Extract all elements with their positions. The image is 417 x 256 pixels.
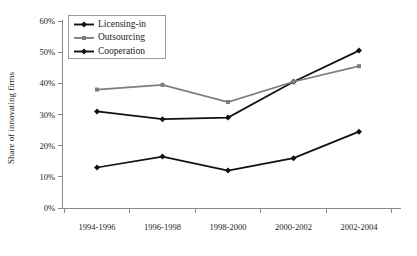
x-tick-label: 1994-1996 [79,222,116,232]
data-point-marker [292,80,296,84]
y-tick-label: 0% [44,203,55,213]
y-tick-label: 20% [39,141,55,151]
x-tick-label: 1996-1998 [144,222,181,232]
y-tick-label: 60% [39,16,55,26]
data-point-marker [291,155,297,161]
series-line [97,66,359,102]
data-point-marker [226,100,230,104]
x-tick-label: 1998-2000 [210,222,247,232]
data-point-marker [94,108,100,114]
data-point-marker [160,116,166,122]
data-point-marker [161,83,165,87]
data-point-marker [160,154,166,160]
data-point-marker [225,168,231,174]
legend-label[interactable]: Outsourcing [98,32,145,42]
y-axis-title: Share of innovating firms [6,71,16,164]
chart-container: Share of innovating firms 0%10%20%30%40%… [0,0,417,256]
series-line [97,51,359,120]
data-point-marker [356,129,362,135]
data-point-marker [357,64,361,68]
y-tick-label: 50% [39,47,55,57]
legend-label[interactable]: Licensing-in [98,19,146,29]
x-tick-label: 2002-2004 [341,222,379,232]
x-tick-label: 2000-2002 [275,222,312,232]
data-point-marker [94,164,100,170]
data-point-marker [356,48,362,54]
legend-label[interactable]: Cooperation [98,46,145,56]
y-tick-label: 40% [39,78,55,88]
legend-items: Licensing-inOutsourcingCooperation [74,19,146,56]
series-outsourcing [95,64,361,104]
series-group [94,48,362,174]
chart-legend: Licensing-inOutsourcingCooperation [69,16,166,59]
data-point-marker [95,88,99,92]
y-tick-label: 30% [39,110,55,120]
series-line [97,132,359,171]
y-axis-ticks: 0%10%20%30%40%50%60% [39,16,62,213]
data-point-marker [82,36,86,40]
y-axis-title-group: Share of innovating firms [6,71,16,164]
x-axis-ticks: 1994-19961996-19981998-20002000-20022002… [64,209,392,233]
series-cooperation [94,129,362,174]
y-tick-label: 10% [39,172,55,182]
line-chart: Share of innovating firms 0%10%20%30%40%… [0,0,417,256]
